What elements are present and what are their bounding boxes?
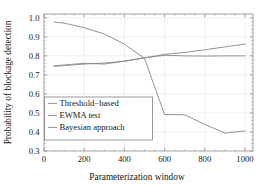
y-tick-label: 0.5: [29, 108, 40, 118]
x-tick-label: 0: [42, 154, 46, 164]
chart-figure: 0.30.40.50.60.70.80.91.0 020040060080010…: [0, 0, 274, 185]
chart-legend[interactable]: Threshold−basedEWMA testBayesian approac…: [45, 97, 153, 140]
y-tick-labels: 0.30.40.50.60.70.80.91.0: [29, 13, 40, 156]
legend-label-1: EWMA test: [60, 110, 101, 120]
y-tick-label: 0.6: [29, 89, 40, 99]
x-tick-label: 600: [158, 154, 171, 164]
x-tick-label: 200: [78, 154, 91, 164]
legend-label-0: Threshold−based: [60, 98, 120, 108]
x-tick-label: 1000: [236, 154, 253, 164]
x-axis-label: Parameterization window: [89, 172, 185, 182]
y-tick-label: 0.8: [29, 51, 40, 61]
x-tick-label: 800: [198, 154, 211, 164]
y-tick-label: 0.4: [29, 127, 40, 137]
x-tick-labels: 02004006008001000: [42, 154, 254, 164]
legend-label-2: Bayesian approach: [60, 122, 126, 132]
y-tick-label: 0.9: [29, 32, 40, 42]
y-tick-label: 0.7: [29, 70, 40, 80]
line-chart: 0.30.40.50.60.70.80.91.0 020040060080010…: [0, 0, 274, 185]
y-tick-label: 1.0: [29, 13, 40, 23]
x-tick-label: 400: [118, 154, 131, 164]
y-tick-label: 0.3: [29, 146, 40, 156]
y-axis-label: Probability of blockage detection: [3, 20, 13, 144]
